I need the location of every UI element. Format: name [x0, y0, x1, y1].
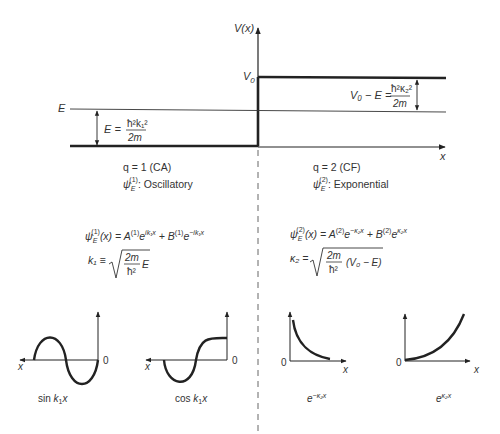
e-label: E — [58, 102, 66, 114]
region-left-q: q = 1 (CA) — [123, 161, 171, 173]
decay-curve — [293, 320, 330, 359]
svg-text:x: x — [342, 364, 349, 375]
cos-caption: cos k1x — [175, 393, 208, 405]
decay-caption: e−κ₂x — [307, 392, 327, 404]
svg-text:ħ²: ħ² — [127, 266, 137, 277]
left-k-definition: k₁ ≡ 2m ħ² E — [88, 250, 150, 278]
region-right-psi: ψE(2): Exponential — [313, 176, 389, 192]
left-energy-num: ħ²k₁² — [127, 118, 148, 129]
left-energy-den: 2m — [127, 132, 142, 143]
region-left-labels: q = 1 (CA) ψE(1): Oscillatory — [123, 161, 193, 192]
mini-plot-exp-growth: 0 x eκ₂x — [396, 314, 480, 404]
svg-text:0: 0 — [103, 355, 109, 366]
growth-curve — [405, 314, 464, 360]
mini-plot-exp-decay: 0 x e−κ₂x — [281, 312, 349, 404]
sin-curve — [34, 338, 98, 385]
x-axis-label: x — [439, 150, 446, 162]
svg-text:(V₀ − E): (V₀ − E) — [346, 257, 382, 268]
right-wavefunction-formula: ψE(2)(x) = A(2)e−κ₂x + B(2)eκ₂x — [290, 226, 407, 242]
svg-text:0: 0 — [396, 357, 402, 368]
svg-text:0: 0 — [281, 357, 287, 368]
growth-caption: eκ₂x — [436, 392, 452, 404]
right-k-definition: κ₂ = 2m ħ² (V₀ − E) — [290, 248, 383, 276]
right-energy-lhs: V₀ − E = — [350, 89, 392, 101]
svg-text:κ₂ =: κ₂ = — [290, 252, 308, 264]
svg-text:x: x — [17, 361, 24, 372]
svg-text:E: E — [142, 258, 150, 270]
svg-text:2m: 2m — [326, 250, 341, 261]
svg-text:ψE(1)(x) = A(1)eik₁x + B(1)e−i: ψE(1)(x) = A(1)eik₁x + B(1)e−ik₁x — [85, 228, 205, 244]
svg-text:2m: 2m — [124, 252, 139, 263]
region-right-q: q = 2 (CF) — [313, 161, 361, 173]
potential-step-diagram: V(x) x V0 E E = ħ²k₁² 2m V₀ − E = ħ²κ₂² … — [0, 0, 500, 434]
v-axis-label: V(x) — [234, 22, 255, 34]
svg-text:ψE(2)(x) = A(2)e−κ₂x + B(2)eκ₂: ψE(2)(x) = A(2)e−κ₂x + B(2)eκ₂x — [290, 226, 407, 242]
mini-plot-sin: x 0 sin k1x — [17, 312, 109, 405]
right-energy-den: 2m — [392, 98, 407, 109]
svg-text:k₁ ≡: k₁ ≡ — [88, 254, 106, 266]
sin-caption: sin k1x — [38, 393, 68, 405]
svg-text:0: 0 — [232, 355, 238, 366]
left-energy-lhs: E = — [104, 123, 121, 135]
svg-text:ħ²: ħ² — [329, 264, 339, 275]
potential-v0-level — [258, 77, 446, 78]
region-right-labels: q = 2 (CF) ψE(2): Exponential — [313, 161, 389, 192]
right-energy-num: ħ²κ₂² — [391, 83, 413, 94]
svg-text:x: x — [144, 361, 151, 372]
mini-plot-cos: x 0 cos k1x — [144, 312, 238, 405]
svg-text:x: x — [473, 364, 480, 375]
left-wavefunction-formula: ψE(1)(x) = A(1)eik₁x + B(1)e−ik₁x — [85, 228, 205, 244]
v0-label: V0 — [243, 70, 255, 85]
region-left-psi: ψE(1): Oscillatory — [123, 176, 193, 192]
